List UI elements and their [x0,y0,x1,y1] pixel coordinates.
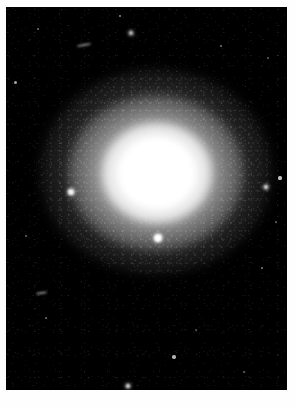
astronomical-plate [6,7,287,390]
page-canvas [0,0,296,407]
galaxy-halo-grain [40,69,272,274]
